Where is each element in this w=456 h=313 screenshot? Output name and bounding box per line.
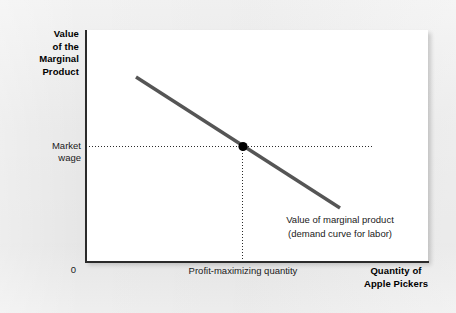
market-wage-guide-line: [86, 146, 372, 147]
y-axis-title: Value of the Marginal Product: [0, 28, 79, 78]
y-axis-title-line-1: Value: [0, 28, 79, 41]
curve-annotation: Value of marginal product (demand curve …: [262, 213, 418, 240]
market-wage-label-line-2: wage: [6, 152, 81, 164]
profit-maximizing-quantity-guide-line: [242, 147, 243, 261]
y-axis-title-line-4: Product: [0, 66, 79, 79]
market-wage-label: Market wage: [6, 140, 81, 165]
origin-label: 0: [60, 264, 76, 275]
profit-maximizing-quantity-label: Profit-maximizing quantity: [160, 265, 326, 276]
market-wage-label-line-1: Market: [6, 140, 81, 152]
x-axis-line: [85, 261, 429, 263]
vmp-chart-figure: Value of the Marginal Product Market wag…: [0, 0, 456, 313]
x-axis-title: Quantity of Apple Pickers: [338, 265, 454, 290]
curve-annotation-line-1: Value of marginal product: [262, 213, 418, 227]
x-axis-title-line-2: Apple Pickers: [338, 278, 454, 291]
x-axis-title-line-1: Quantity of: [338, 265, 454, 278]
y-axis-title-line-2: of the: [0, 41, 79, 54]
curve-annotation-line-2: (demand curve for labor): [262, 227, 418, 241]
y-axis-title-line-3: Marginal: [0, 53, 79, 66]
